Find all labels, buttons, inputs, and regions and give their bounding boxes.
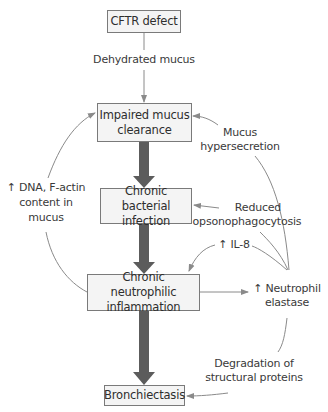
edge-elastase-to-opsono (260, 232, 288, 270)
thick-arrow-inflammation-to-bronchiectasis (133, 311, 155, 385)
edge-dna-upper (48, 113, 95, 178)
node-infection-text-line1: Chronic bacterial (101, 184, 191, 214)
node-chronic-bacterial-infection: Chronic bacterial infection (100, 188, 192, 224)
label-hyper-line2: hypersecretion (200, 140, 280, 154)
label-neutrophil-elastase: ↑ Neutrophil elastase (250, 282, 324, 310)
node-cftr-defect: CFTR defect (107, 10, 181, 33)
label-dehydrated-mucus: Dehydrated mucus (92, 53, 196, 67)
edge-hypersecretion-to-impaired (193, 116, 218, 125)
label-elastase-line2: elastase (250, 296, 324, 310)
edge-elastase-to-degradation (278, 318, 287, 352)
edge-il8-to-inflammation (189, 245, 215, 271)
label-dna-factin: ↑ DNA, F-actin content in mucus (4, 180, 88, 225)
node-impaired-text-line1: Impaired mucus (100, 108, 190, 123)
label-degradation-line2: structural proteins (204, 371, 304, 385)
label-dna-line1: ↑ DNA, F-actin (4, 180, 88, 195)
label-opsono-line1: Reduced (192, 201, 302, 215)
label-elastase-line1: ↑ Neutrophil (250, 282, 324, 296)
node-inflammation-text-line1: Chronic neutrophilic (88, 270, 199, 300)
node-bronchiectasis-text: Bronchiectasis (104, 388, 185, 403)
label-dna-line3: mucus (4, 210, 88, 225)
node-cftr-defect-text: CFTR defect (110, 14, 177, 29)
label-il8-text: ↑ IL-8 (218, 238, 250, 251)
label-degradation-line1: Degradation of (204, 357, 304, 371)
node-inflammation-text-line2: inflammation (107, 300, 181, 315)
thick-arrow-infection-to-inflammation (133, 224, 155, 274)
node-impaired-text-line2: clearance (117, 123, 171, 138)
label-il8: ↑ IL-8 (216, 238, 252, 252)
label-dehydrated-text: Dehydrated mucus (93, 53, 195, 66)
node-infection-text-line2: infection (122, 214, 170, 229)
label-mucus-hypersecretion: Mucus hypersecretion (200, 126, 280, 154)
node-bronchiectasis: Bronchiectasis (104, 385, 185, 406)
label-opsono-line2: opsonophagocytosis (192, 215, 302, 229)
edge-degradation-to-bronchiectasis (187, 393, 228, 396)
label-dna-line2: content in (4, 195, 88, 210)
label-hyper-line1: Mucus (200, 126, 280, 140)
label-reduced-opsonophagocytosis: Reduced opsonophagocytosis (192, 201, 302, 229)
node-chronic-neutrophilic-inflammation: Chronic neutrophilic inflammation (87, 274, 200, 311)
node-impaired-mucus-clearance: Impaired mucus clearance (97, 103, 192, 142)
label-degradation-structural-proteins: Degradation of structural proteins (204, 357, 304, 385)
thick-arrow-impaired-to-infection (133, 142, 155, 188)
edge-dna-lower (46, 232, 87, 292)
